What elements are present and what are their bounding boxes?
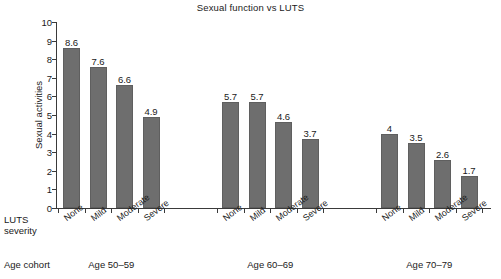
chart-title: Sexual function vs LUTS [0, 2, 501, 13]
bar: 2.6 [434, 160, 451, 208]
y-tick-label: 6 [47, 91, 52, 102]
y-tick-label: 2 [47, 165, 52, 176]
bar-value-label: 6.6 [118, 74, 131, 85]
bar-value-label: 3.7 [303, 128, 316, 139]
y-tick-label: 7 [47, 72, 52, 83]
luts-severity-line-1: LUTS [4, 214, 37, 225]
y-tick-label: 1 [47, 184, 52, 195]
bar-value-label: 2.6 [436, 149, 449, 160]
chart-figure: Sexual function vs LUTS Sexual activitie… [0, 0, 501, 279]
x-tick-mark [111, 209, 112, 213]
bar-value-label: 4.6 [277, 111, 290, 122]
y-tick-mark [52, 41, 56, 42]
y-tick-label: 9 [47, 35, 52, 46]
bar-value-label: 7.6 [91, 56, 104, 67]
plot-area: Sexual activities 012345678910 8.67.66.6… [56, 22, 491, 208]
luts-severity-line-2: severity [4, 225, 37, 236]
bar: 7.6 [90, 67, 107, 208]
x-tick-mark [217, 209, 218, 213]
y-tick-label: 8 [47, 54, 52, 65]
y-tick-mark [52, 171, 56, 172]
x-tick-mark [376, 209, 377, 213]
y-tick-mark [52, 189, 56, 190]
bar: 4 [381, 134, 398, 208]
age-cohort-label: Age 60–69 [210, 259, 330, 270]
y-tick-mark [52, 22, 56, 23]
age-cohort-row-label: Age cohort [4, 259, 50, 270]
y-tick-mark [52, 115, 56, 116]
bar-value-label: 4 [387, 123, 392, 134]
y-tick-label: 10 [41, 17, 52, 28]
bar: 5.7 [222, 102, 239, 208]
y-tick-label: 3 [47, 147, 52, 158]
bar-value-label: 4.9 [144, 106, 157, 117]
bar-value-label: 5.7 [250, 91, 263, 102]
bar-value-label: 5.7 [224, 91, 237, 102]
bar: 8.6 [63, 48, 80, 208]
x-tick-mark [429, 209, 430, 213]
y-tick-mark [52, 134, 56, 135]
x-tick-mark [270, 209, 271, 213]
y-tick-mark [52, 152, 56, 153]
y-axis-title: Sexual activities [33, 81, 44, 149]
y-tick-label: 0 [47, 203, 52, 214]
bar-value-label: 3.5 [409, 132, 422, 143]
y-tick-mark [52, 208, 56, 209]
y-tick-mark [52, 78, 56, 79]
y-tick-mark [52, 59, 56, 60]
y-tick-label: 4 [47, 128, 52, 139]
age-cohort-label: Age 50–59 [51, 259, 171, 270]
bar-value-label: 8.6 [65, 37, 78, 48]
bar: 4.6 [275, 122, 292, 208]
x-tick-mark [58, 209, 59, 213]
y-tick-label: 5 [47, 110, 52, 121]
age-cohort-label: Age 70–79 [369, 259, 489, 270]
y-tick-mark [52, 96, 56, 97]
luts-severity-row-label: LUTS severity [4, 214, 37, 236]
bar: 3.5 [408, 143, 425, 208]
bar-value-label: 1.7 [462, 165, 475, 176]
bar: 5.7 [249, 102, 266, 208]
bar: 6.6 [116, 85, 133, 208]
